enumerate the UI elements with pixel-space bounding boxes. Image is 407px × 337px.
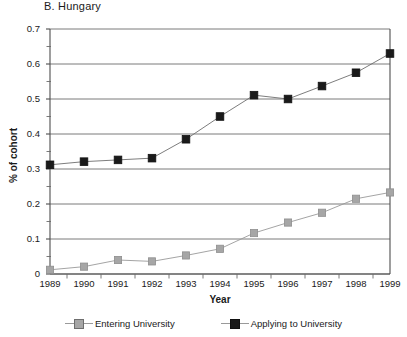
- data-point-marker: [284, 219, 291, 226]
- legend-swatch-icon: [230, 319, 240, 329]
- data-point-marker: [318, 82, 326, 90]
- data-point-marker: [182, 252, 189, 259]
- data-point-marker: [182, 135, 190, 143]
- chart-legend: Entering University Applying to Universi…: [0, 318, 407, 329]
- data-point-marker: [80, 158, 88, 166]
- data-point-marker: [352, 69, 360, 77]
- data-point-marker: [216, 245, 223, 252]
- data-point-marker: [250, 229, 257, 236]
- y-tick-label: 0.3: [6, 164, 40, 174]
- legend-item-applying: Applying to University: [221, 318, 342, 329]
- legend-swatch-icon: [74, 319, 84, 329]
- y-tick-label: 0.7: [6, 24, 40, 34]
- legend-line-icon: [65, 323, 74, 324]
- y-tick-label: 0.4: [6, 129, 40, 139]
- y-tick-label: 0.1: [6, 234, 40, 244]
- data-point-marker: [114, 156, 122, 164]
- data-point-marker: [46, 266, 53, 273]
- legend-line-icon: [84, 323, 93, 324]
- y-tick-label: 0.2: [6, 199, 40, 209]
- legend-line-icon: [221, 323, 230, 324]
- data-point-marker: [386, 189, 393, 196]
- y-tick-label: 0.5: [6, 94, 40, 104]
- y-tick-label: 0: [6, 269, 40, 279]
- data-point-marker: [250, 91, 258, 99]
- legend-line-icon: [240, 323, 249, 324]
- data-point-marker: [46, 161, 54, 169]
- data-point-marker: [352, 195, 359, 202]
- legend-label: Applying to University: [251, 318, 342, 329]
- data-point-marker: [114, 256, 121, 263]
- series-line: [50, 54, 390, 165]
- chart-figure: B. Hungary % of cohort Year 00.10.20.30.…: [0, 0, 407, 337]
- data-point-marker: [148, 258, 155, 265]
- legend-item-entering: Entering University: [65, 318, 175, 329]
- data-point-marker: [284, 95, 292, 103]
- data-point-marker: [216, 113, 224, 121]
- legend-label: Entering University: [95, 318, 175, 329]
- data-point-marker: [148, 154, 156, 162]
- data-point-marker: [318, 209, 325, 216]
- x-tick-label: 1999: [370, 279, 407, 289]
- data-point-marker: [386, 50, 394, 58]
- y-tick-label: 0.6: [6, 59, 40, 69]
- data-point-marker: [80, 263, 87, 270]
